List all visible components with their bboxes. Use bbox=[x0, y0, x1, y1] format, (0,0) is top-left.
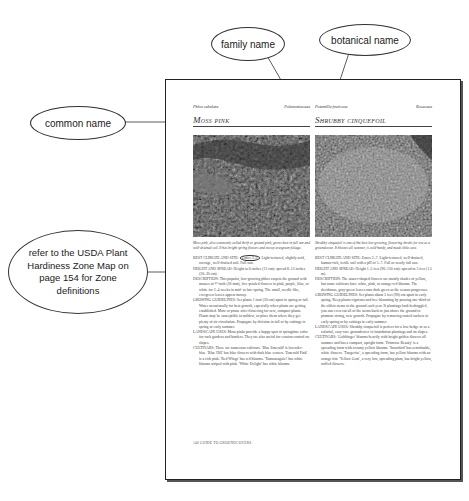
section-climate: BEST CLIMATE AND SITE: Zones 2–7. Light-… bbox=[315, 256, 432, 267]
entry-header: Potentilla fruticosa Rosaceae bbox=[315, 104, 432, 109]
section-landscape: LANDSCAPE USES: Shrubby cinquefoil is pe… bbox=[315, 325, 432, 336]
section-description: DESCRIPTION: This popular, low-growing p… bbox=[193, 277, 310, 298]
photo-caption: Moss pink, also commonly called thrift o… bbox=[193, 241, 310, 251]
entry-body: BEST CLIMATE AND SITE: Zones 2–7. Light-… bbox=[315, 256, 432, 367]
callout-zone-note: refer to the USDA Plant Hardiness Zone M… bbox=[8, 230, 148, 314]
section-height: HEIGHT AND SPREAD: Height 1–5 feet (90–1… bbox=[315, 267, 432, 278]
common-name: Moss pink bbox=[193, 115, 310, 127]
zones-highlight: Zones 3–9. bbox=[240, 255, 261, 261]
section-climate: BEST CLIMATE AND SITE: Zones 3–9. Light-… bbox=[193, 256, 310, 267]
botanical-name: Phlox subulata bbox=[193, 104, 218, 109]
entry-header: Phlox subulata Polemoniaceae bbox=[193, 104, 310, 109]
callout-botanical-name: botanical name bbox=[319, 24, 411, 56]
family-name: Polemoniaceae bbox=[284, 104, 310, 109]
entry-body: BEST CLIMATE AND SITE: Zones 3–9. Light-… bbox=[193, 256, 310, 367]
photo-caption: Shrubby cinquefoil is one of the best lo… bbox=[315, 241, 432, 251]
plant-photo bbox=[315, 135, 432, 237]
common-name: Shrubby cinquefoil bbox=[315, 115, 432, 127]
family-name: Rosaceae bbox=[416, 104, 432, 109]
book-page: Phlox subulata Polemoniaceae Moss pink M… bbox=[165, 79, 461, 480]
callout-common-name: common name bbox=[30, 106, 126, 140]
section-cultivars: CULTIVARS: 'Goldfinger' blooms heavily w… bbox=[315, 335, 432, 367]
section-cultivars: CULTIVARS: There are numerous cultivars.… bbox=[193, 346, 310, 367]
section-growing: GROWING GUIDELINES: Set plants 1 foot (3… bbox=[193, 298, 310, 330]
plant-photo bbox=[193, 135, 310, 237]
section-height: HEIGHT AND SPREAD: Height to 6 inches (1… bbox=[193, 267, 310, 278]
section-growing: GROWING GUIDELINES: Set plants about 3 f… bbox=[315, 293, 432, 325]
section-landscape: LANDSCAPE USES: Moss pinks provide a hap… bbox=[193, 330, 310, 346]
page-footer: 140 GUIDE TO GROUNDCOVERS bbox=[193, 441, 251, 445]
callout-family-name: family name bbox=[211, 27, 285, 61]
section-description: DESCRIPTION: The saucer-shaped flowers a… bbox=[315, 277, 432, 293]
botanical-name: Potentilla fruticosa bbox=[315, 104, 347, 109]
